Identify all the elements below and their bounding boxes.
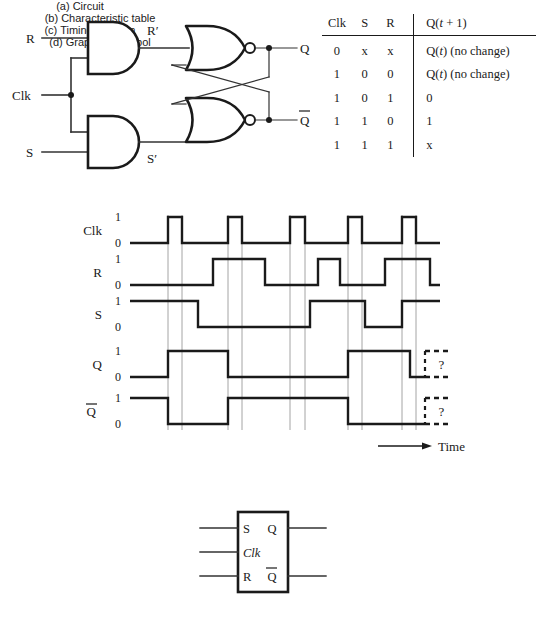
timing-level-low: 0 [115,320,121,334]
cell-s: 1 [352,134,378,157]
table-row: 0 x x Q(t) (no change) [322,36,536,64]
cell-s: x [352,36,378,64]
symbol-label-q: Q [267,522,276,536]
timing-waveform-s [130,301,440,327]
cell-q-next: x [414,134,536,157]
nor-gate-bottom [186,98,245,142]
cell-s: 1 [352,110,378,133]
timing-level-low: 0 [115,417,121,431]
symbol-label-qbar: Q [267,570,276,584]
cell-q-next: 1 [414,110,536,133]
cell-r: 0 [378,110,414,133]
and-gate-r [88,22,139,74]
cell-clk: 0 [322,36,352,64]
timing-label-clk: Clk [83,223,102,238]
cell-r: 0 [378,63,414,86]
timing-label-qbar: Q [87,404,97,419]
table-row: 1 1 1 x [322,134,536,157]
timing-level-high: 1 [115,344,121,358]
table-header-row: Clk S R Q(t + 1) [322,14,536,36]
timing-level-high: 1 [115,210,121,224]
circuit-label-r-prime: R′ [147,23,159,38]
symbol-label-clk: Clk [243,546,261,560]
timing-level-low: 0 [115,278,121,292]
timing-waveform-r [130,259,440,285]
header-q-prefix: Q( [426,16,439,30]
cell-q-next: 0 [414,87,536,110]
circuit-panel: R Clk S R′ S′ Q Q [0,0,310,175]
timing-level-high: 1 [115,391,121,405]
circuit-label-r: R [26,31,35,46]
graphical-symbol-svg: S Clk R Q Q [0,500,536,605]
timing-label-s: S [95,307,102,322]
cell-q-pre: Q( [426,44,439,58]
cell-clk: 1 [322,63,352,86]
table-row: 1 0 1 0 [322,87,536,110]
cell-r: x [378,36,414,64]
timing-unknown-marker: ? [439,357,445,372]
cell-q-pre: 0 [426,91,432,105]
junction-dot-clk [68,92,74,98]
cell-q-post: ) (no change) [443,67,510,81]
cell-r: 1 [378,87,414,110]
cell-clk: 1 [322,87,352,110]
header-q-next: Q(t + 1) [414,14,536,36]
cell-q-pre: Q( [426,67,439,81]
timing-level-low: 0 [115,236,121,250]
timing-waveform-clk [130,217,440,243]
and-gate-s [88,116,139,168]
circuit-svg: R Clk S R′ S′ Q Q [0,0,310,175]
table-row: 1 0 0 Q(t) (no change) [322,63,536,86]
junction-dot-q [266,45,272,51]
inversion-bubble-top [245,43,255,53]
inversion-bubble-bottom [245,115,255,125]
timing-diagram-svg: Clk10R10S10Q10?Q10?Time [0,205,536,470]
circuit-label-clk: Clk [12,88,31,103]
circuit-label-q: Q [300,41,310,56]
timing-unknown-marker: ? [439,404,445,419]
cell-q-post: ) (no change) [443,44,510,58]
timing-level-high: 1 [115,294,121,308]
header-clk: Clk [322,14,352,36]
circuit-label-s: S [26,145,33,160]
symbol-label-r: R [243,570,252,584]
junction-dot-qbar [266,117,272,123]
header-r: R [378,14,414,36]
timing-waveform-qbar [130,398,425,424]
timing-diagram-panel: Clk10R10S10Q10?Q10?Time [0,205,536,470]
graphical-symbol-panel: S Clk R Q Q [0,500,536,605]
timing-label-q: Q [93,357,103,372]
nor-gate-top [186,26,245,70]
cell-s: 0 [352,87,378,110]
symbol-label-s: S [243,522,250,536]
cell-r: 1 [378,134,414,157]
cell-q-next: Q(t) (no change) [414,36,536,64]
header-s: S [352,14,378,36]
timing-level-low: 0 [115,370,121,384]
timing-level-high: 1 [115,252,121,266]
timing-label-r: R [93,265,102,280]
cell-clk: 1 [322,134,352,157]
circuit-label-s-prime: S′ [147,151,157,166]
characteristic-table: Clk S R Q(t + 1) 0 x x Q(t) (no change) … [322,14,536,157]
cell-clk: 1 [322,110,352,133]
circuit-label-qbar: Q [300,113,310,128]
cell-q-pre: 1 [426,114,432,128]
header-q-suffix: + 1) [443,16,467,30]
table-row: 1 1 0 1 [322,110,536,133]
timing-waveform-q [130,351,425,377]
cell-q-next: Q(t) (no change) [414,63,536,86]
time-axis-label: Time [438,439,465,454]
cell-q-pre: x [426,138,432,152]
time-axis-arrow-head [422,443,432,450]
cell-s: 0 [352,63,378,86]
